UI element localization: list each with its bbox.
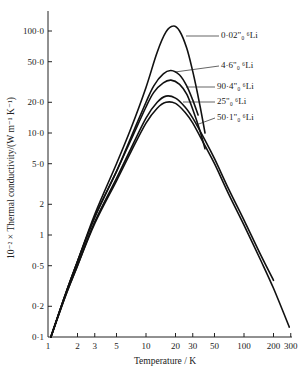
y-tick-label: 0·2: [32, 301, 44, 311]
y-tick-label: 0·1: [32, 332, 44, 342]
y-tick-label: 0·5: [32, 261, 44, 271]
y-tick-label: 5·0: [32, 159, 44, 169]
x-tick-label: 200: [267, 341, 281, 351]
y-tick-label: 50·0: [28, 57, 45, 67]
y-tick-label: 100·0: [23, 26, 44, 36]
y-tick-label: 1: [40, 230, 45, 240]
x-ticks: 123510203050100200300: [46, 333, 298, 351]
x-tick-label: 2: [75, 341, 80, 351]
thermal-conductivity-chart: 123510203050100200300 0·10·20·5125·010·0…: [0, 0, 303, 374]
x-tick-label: 5: [114, 341, 119, 351]
x-tick-label: 10: [142, 341, 152, 351]
x-tick-label: 100: [237, 341, 251, 351]
x-tick-label: 300: [284, 341, 298, 351]
legend-leader-line: [196, 118, 215, 125]
series-curve-1: [51, 70, 198, 337]
y-axis-title: 10⁻² × Thermal conductivity/(W m⁻¹ K⁻¹): [6, 97, 17, 259]
legend-label: 4·6"₀ ⁶Li: [221, 60, 254, 70]
y-tick-label: 2: [40, 199, 45, 209]
y-tick-label: 20·0: [28, 97, 45, 107]
legend-label: 90·4"₀ ⁶Li: [217, 81, 254, 91]
x-tick-label: 3: [93, 341, 98, 351]
x-tick-label: 30: [188, 341, 198, 351]
x-tick-label: 20: [171, 341, 181, 351]
x-tick-label: 1: [46, 341, 51, 351]
series-curve-0: [51, 26, 205, 337]
legend-label: 0·02"₀ ⁶Li: [221, 30, 258, 40]
data-curves: [51, 26, 289, 337]
y-tick-label: 10·0: [28, 128, 45, 138]
series-curve-4: [51, 102, 289, 337]
x-axis-title: Temperature / K: [134, 356, 196, 366]
series-curve-2: [51, 80, 205, 337]
legend-leader-line: [175, 66, 219, 72]
legend-label: 50·1"₀ ⁶Li: [217, 112, 254, 122]
legend-label: 25"₀ ⁶Li: [217, 96, 247, 106]
x-tick-label: 50: [210, 341, 220, 351]
